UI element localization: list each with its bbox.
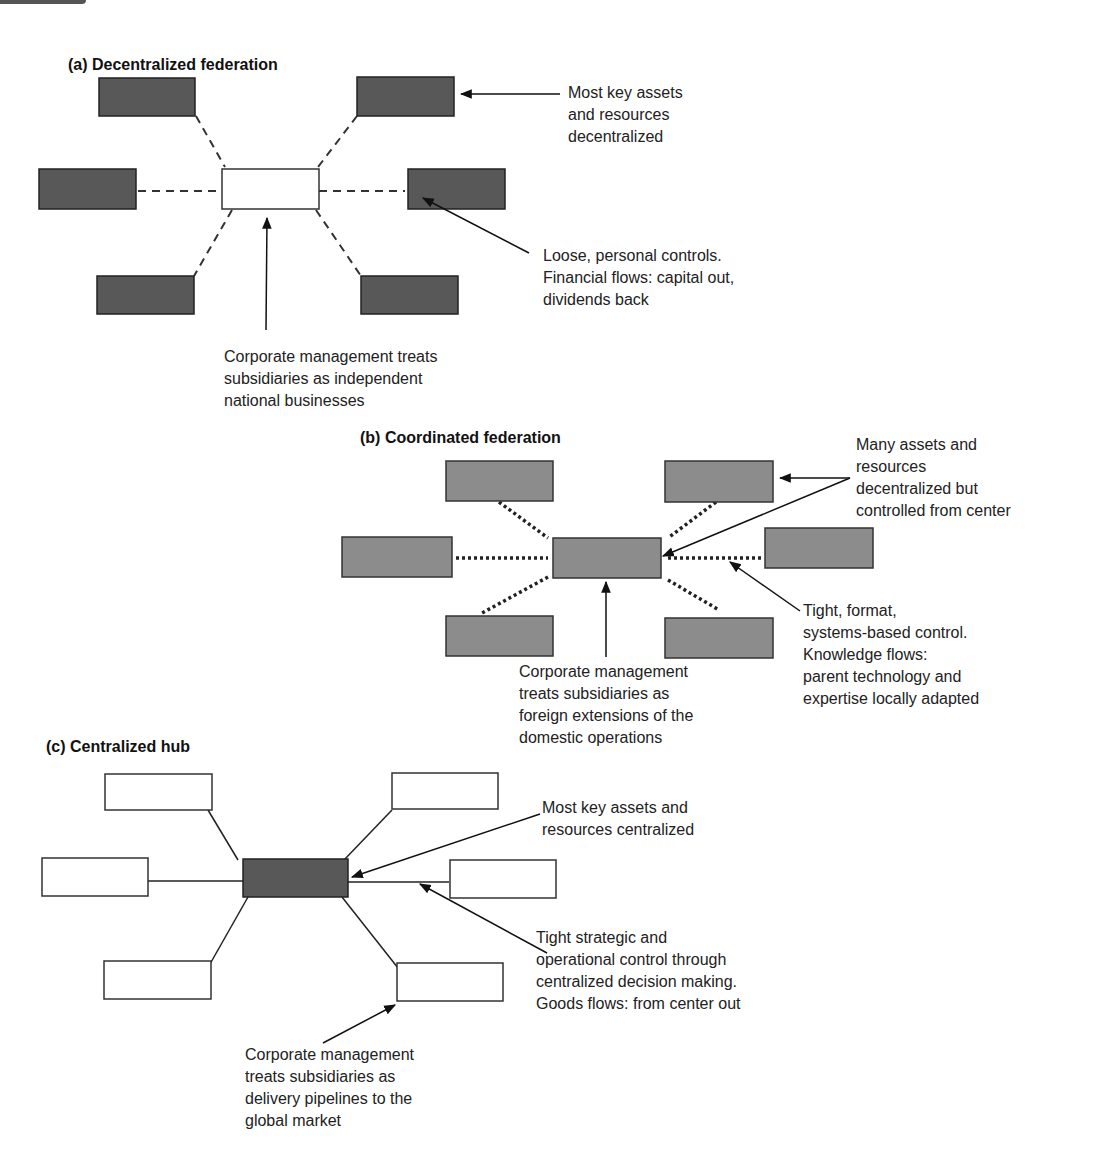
subsidiary-node (392, 773, 498, 809)
subsidiary-node (665, 461, 773, 502)
subsidiary-node (446, 461, 553, 501)
panel-b-coordinated-federation (342, 461, 873, 658)
subsidiary-node (104, 961, 211, 999)
panel-b-title: (b) Coordinated federation (360, 429, 561, 447)
panel-a-decentralized-federation (39, 77, 560, 330)
subsidiary-node (665, 618, 773, 658)
subsidiary-node (361, 276, 458, 314)
panel-a-management-note: Corporate management treats subsidiaries… (224, 346, 437, 412)
panel-c-controls-note: Tight strategic and operational control … (536, 927, 741, 1015)
subsidiary-node (765, 528, 873, 568)
panel-b-management-note: Corporate management treats subsidiaries… (519, 661, 693, 749)
panel-a-title: (a) Decentralized federation (68, 56, 278, 74)
subsidiary-node (342, 537, 452, 577)
panel-b-assets-note: Many assets and resources decentralized … (856, 434, 1011, 522)
headquarters-node (243, 859, 348, 897)
subsidiary-node (105, 774, 212, 810)
panel-c-management-note: Corporate management treats subsidiaries… (245, 1044, 414, 1132)
subsidiary-node (42, 858, 148, 896)
panel-a-assets-note: Most key assets and resources decentrali… (568, 82, 683, 148)
panel-c-arrows (323, 814, 547, 1043)
subsidiary-node (39, 169, 136, 209)
panel-c-assets-note: Most key assets and resources centralize… (542, 797, 694, 841)
subsidiary-node (446, 616, 553, 656)
panel-b-controls-note: Tight, format, systems-based control. Kn… (803, 600, 979, 710)
subsidiary-node (99, 78, 195, 116)
panel-a-controls-note: Loose, personal controls. Financial flow… (543, 245, 734, 311)
headquarters-node (222, 169, 319, 209)
subsidiary-node (408, 169, 505, 209)
subsidiary-node (450, 860, 556, 898)
panel-c-centralized-hub (42, 773, 556, 1043)
panel-c-title: (c) Centralized hub (46, 738, 190, 756)
subsidiary-node (357, 77, 454, 116)
headquarters-node (553, 538, 661, 578)
subsidiary-node (397, 963, 503, 1001)
subsidiary-node (97, 276, 194, 314)
